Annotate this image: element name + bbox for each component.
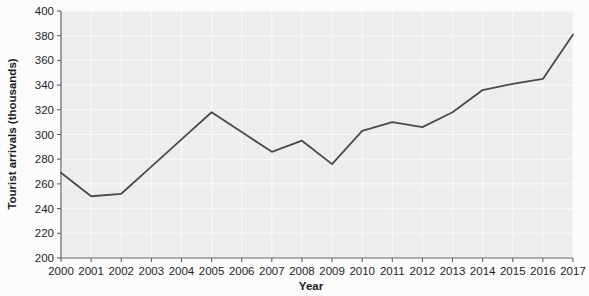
x-tick-label: 2004 — [169, 265, 195, 277]
line-chart: 200220240260280300320340360380400 200020… — [0, 0, 589, 296]
x-tick-label: 2008 — [289, 265, 315, 277]
x-tick-label: 2002 — [108, 265, 134, 277]
x-tick-label: 2001 — [78, 265, 104, 277]
y-tick-label: 300 — [35, 129, 54, 141]
y-tick-label: 280 — [35, 153, 54, 165]
x-tick-label: 2007 — [259, 265, 285, 277]
x-tick-label: 2003 — [139, 265, 165, 277]
x-tick-label: 2010 — [349, 265, 375, 277]
y-tick-label: 400 — [35, 5, 54, 17]
x-tick-label: 2015 — [500, 265, 526, 277]
y-tick-label: 340 — [35, 79, 54, 91]
x-tick-label: 2013 — [440, 265, 466, 277]
chart-figure: 200220240260280300320340360380400 200020… — [0, 0, 589, 296]
y-tick-label: 320 — [35, 104, 54, 116]
x-tick-label: 2000 — [48, 265, 74, 277]
y-tick-label: 260 — [35, 178, 54, 190]
y-tick-label: 240 — [35, 203, 54, 215]
x-tick-label: 2011 — [380, 265, 405, 277]
x-tick-label: 2006 — [229, 265, 255, 277]
x-tick-label: 2009 — [319, 265, 345, 277]
x-tick-label: 2017 — [560, 265, 586, 277]
x-tick-label: 2016 — [530, 265, 556, 277]
x-axis-title: Year — [299, 280, 324, 292]
x-tick-label: 2014 — [470, 265, 496, 277]
y-tick-label: 200 — [35, 252, 54, 264]
y-axis-title: Tourist arrivals (thousands) — [6, 58, 18, 209]
y-tick-label: 220 — [35, 227, 54, 239]
x-tick-label: 2012 — [410, 265, 436, 277]
y-tick-label: 380 — [35, 30, 54, 42]
y-tick-label: 360 — [35, 54, 54, 66]
x-tick-label: 2005 — [199, 265, 225, 277]
